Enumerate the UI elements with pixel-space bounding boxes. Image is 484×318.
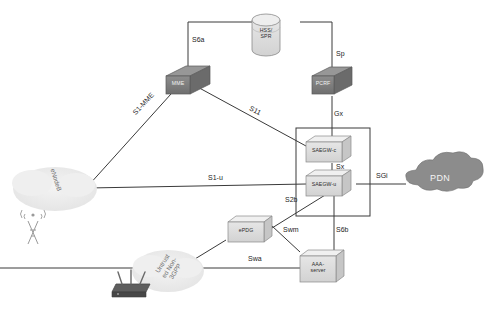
link-hss-pcrf [300, 22, 332, 72]
link-enodeb-saegw-u [88, 184, 306, 188]
link-mme-hss [188, 22, 252, 72]
pdn-cloud-label: PDN [430, 173, 450, 183]
epdg-node [228, 216, 272, 242]
cell-tower-icon [21, 210, 46, 244]
interface-label-s2b: S2b [285, 196, 297, 203]
link-epdg-saegw-u [272, 192, 330, 228]
link-mme-saegw-c [192, 84, 306, 146]
interface-label-sx: Sx [336, 163, 344, 170]
saegw-control-node [306, 136, 351, 162]
interface-label-s6b: S6b [336, 226, 348, 233]
aaa-server-node [300, 250, 344, 282]
interface-label-sgi: SGi [376, 172, 388, 179]
pdn-cloud [406, 152, 484, 192]
interface-label-gx: Gx [334, 110, 343, 117]
diagram-graphics [0, 0, 484, 318]
interface-label-s6a: S6a [192, 36, 204, 43]
hss-spr-database [252, 14, 280, 56]
link-enodeb-mme [88, 84, 180, 186]
interface-label-swa: Swa [248, 255, 262, 262]
interface-label-s1-u: S1-u [208, 174, 223, 181]
interface-label-swm: Swm [283, 226, 299, 233]
network-diagram-canvas: HSS/ SPR MME PCRF SAEGW-c SAEGW-u ePDG A… [0, 0, 484, 318]
saegw-user-node [306, 170, 351, 196]
interface-label-sp: Sp [336, 50, 345, 57]
pcrf-node [312, 67, 352, 94]
